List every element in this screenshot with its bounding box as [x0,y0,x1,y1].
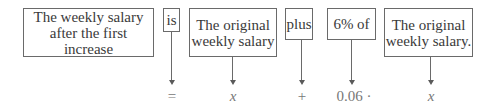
arrow-down-icon [430,57,431,82]
phrase-text: The original weekly salary. [385,17,472,49]
phrase-text: The weekly salary after the first increa… [24,9,153,57]
phrase-text: is [166,12,176,28]
phrase-text: The original weekly salary [190,17,276,49]
coefficient-symbol: 0.06 · [337,88,372,105]
arrow-down-icon [232,57,233,82]
variable-x-symbol: x [230,88,237,105]
phrase-box-original-weekly-salary-2: The original weekly salary. [384,8,473,57]
plus-symbol: + [298,88,306,105]
arrow-down-icon [301,40,302,82]
variable-x-symbol: x [428,88,435,105]
phrase-box-plus: plus [285,8,313,40]
phrase-text: plus [286,16,311,32]
phrase-text: 6% of [333,16,369,32]
phrase-box-is: is [163,8,180,32]
phrase-box-weekly-salary-after-increase: The weekly salary after the first increa… [23,8,154,57]
arrow-down-icon [351,40,352,82]
phrase-box-six-percent-of: 6% of [327,8,376,40]
equals-symbol: = [168,88,176,105]
phrase-box-original-weekly-salary-1: The original weekly salary [189,8,277,57]
arrow-down-icon [171,32,172,82]
